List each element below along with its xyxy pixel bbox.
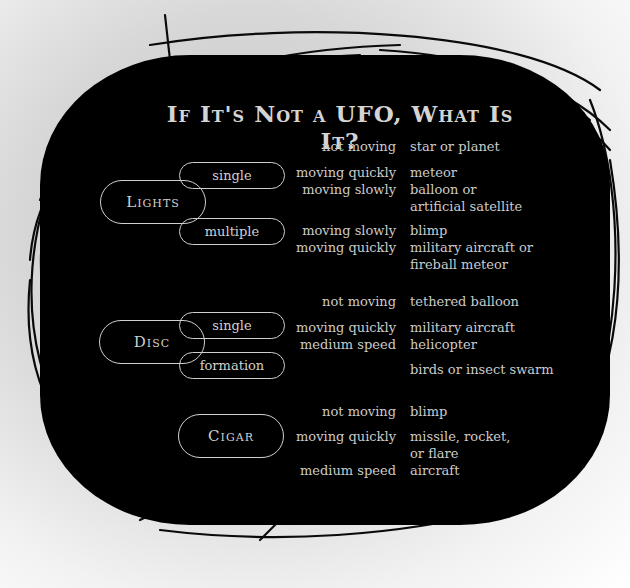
answer: star or planet <box>410 138 570 155</box>
category-label: Cigar <box>208 427 254 445</box>
subtype-label: single <box>212 318 251 333</box>
answer: blimp <box>410 403 570 420</box>
answer: balloon or artificial satellite <box>410 181 570 215</box>
answer: helicopter <box>410 336 570 353</box>
answer: blimp <box>410 222 570 239</box>
answer: military aircraft or fireball meteor <box>410 239 580 273</box>
condition: moving quickly <box>256 239 396 256</box>
condition: medium speed <box>256 336 396 353</box>
condition: moving quickly <box>256 319 396 336</box>
answer: missile, rocket, or flare <box>410 428 570 462</box>
subtype-label: formation <box>200 358 265 373</box>
condition: moving slowly <box>256 181 396 198</box>
answer: aircraft <box>410 462 570 479</box>
category-label: Disc <box>134 333 170 351</box>
condition: not moving <box>256 403 396 420</box>
answer: meteor <box>410 164 570 181</box>
subtype-disc-formation: formation <box>179 352 285 379</box>
answer: military aircraft <box>410 319 570 336</box>
subtype-label: multiple <box>205 224 259 239</box>
condition: not moving <box>256 293 396 310</box>
answer: birds or insect swarm <box>410 361 580 378</box>
condition: medium speed <box>256 462 396 479</box>
condition: moving slowly <box>256 222 396 239</box>
subtype-label: single <box>212 168 251 183</box>
condition: moving quickly <box>256 428 396 445</box>
condition: moving quickly <box>256 164 396 181</box>
condition: not moving <box>256 138 396 155</box>
answer: tethered balloon <box>410 293 570 310</box>
category-label: Lights <box>126 193 180 211</box>
